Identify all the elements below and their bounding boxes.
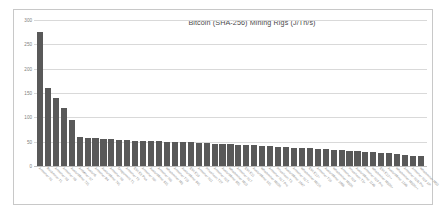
bar [370, 152, 376, 166]
x-axis-label-slot: Whatsminer M30S++ [394, 167, 400, 205]
x-axis-label-slot: Antminer S15 [212, 167, 218, 205]
x-axis-label-slot: AvalonMiner 921 [251, 167, 257, 205]
x-axis-label-slot: Antminer S3 [53, 167, 59, 205]
x-axis-label-slot: Innosilicon T3+ [346, 167, 352, 205]
bar [156, 141, 162, 166]
x-axis-label-slot: Whatsminer M21S [299, 167, 305, 205]
bar [172, 142, 178, 166]
y-axis-tick-label: 0 [29, 164, 32, 169]
bar [346, 151, 352, 166]
bar [196, 143, 202, 166]
x-axis-label-slot: Antminer S17+ [291, 167, 297, 205]
bar [53, 98, 59, 166]
x-axis-label-slot: Antminer T19 [315, 167, 321, 205]
x-axis-label-slot: Dragonmint T1 [116, 167, 122, 205]
y-axis-tick-label: 100 [24, 115, 32, 120]
bar [235, 145, 241, 166]
x-axis-label-slot: Avalon6 [85, 167, 91, 205]
x-axis-label-slot: AvalonMiner 851 [219, 167, 225, 205]
x-axis-tick-labels: Antminer S1Rockminer T1Antminer S3Antmin… [34, 167, 427, 205]
bar [410, 156, 416, 166]
x-axis-label-slot: Whatsminer M30S+ [370, 167, 376, 205]
y-axis-tick-label: 250 [24, 42, 32, 47]
bar [394, 154, 400, 166]
bar [116, 140, 122, 166]
bar [378, 153, 384, 166]
x-axis-label-slot: Ebit E12+ [307, 167, 313, 205]
y-axis-tick-label: 200 [24, 66, 32, 71]
x-axis-label-slot: Innosilicon T2T [204, 167, 210, 205]
bar [354, 151, 360, 166]
bar [132, 141, 138, 166]
bar [323, 149, 329, 166]
bar [259, 146, 265, 166]
chart-container: Bitcoin (SHA-256) Mining Rigs (J/Th/s) 3… [13, 9, 433, 205]
x-axis-label-slot: Antminer S9j [156, 167, 162, 205]
x-axis-label-slot: Whatsminer M10 [227, 167, 233, 205]
bar [227, 144, 233, 166]
x-axis-label-slot: Whatsminer M3 [164, 167, 170, 205]
x-axis-label-slot: AvalonMiner 1047 [283, 167, 289, 205]
bar [315, 149, 321, 166]
bar [140, 141, 146, 166]
bar [108, 139, 114, 166]
x-axis-label-slot: AvalonMiner 1066 [323, 167, 329, 205]
bar [77, 137, 83, 166]
x-axis-label-slot: Antminer R4 [92, 167, 98, 205]
plot-area [34, 20, 427, 166]
x-axis-label-slot: Antminer S5 [61, 167, 67, 205]
x-axis-label-slot: AvalonMiner 841 [180, 167, 186, 205]
bar [148, 141, 154, 166]
bar [92, 138, 98, 166]
y-axis-tick-labels: 300250200150100500 [14, 20, 34, 166]
x-axis-label-slot: Antminer S1 [37, 167, 43, 205]
x-axis-label-slot: AvalonMiner 821 [148, 167, 154, 205]
y-axis-tick-label: 50 [27, 139, 32, 144]
bar [69, 120, 75, 166]
bar [307, 148, 313, 166]
bar [275, 147, 281, 166]
bar [124, 140, 130, 166]
bar [331, 150, 337, 166]
x-axis-label-slot: Whatsminer M30S [331, 167, 337, 205]
bar [299, 148, 305, 166]
bar [267, 146, 273, 166]
x-axis-label-slot: AntMiner S7 [77, 167, 83, 205]
x-axis-label-slot: Antminer T9 [124, 167, 130, 205]
x-axis-label-slot: AvalonMiner 1246 [386, 167, 392, 205]
bar [180, 142, 186, 166]
x-axis-label-slot: Antminer S19 [339, 167, 345, 205]
bar [85, 138, 91, 166]
x-axis-label-slot: Antminer S9 [108, 167, 114, 205]
x-axis-label-slot: AvalonMiner 721 [69, 167, 75, 205]
x-axis-label-slot: Antminer S11 [196, 167, 202, 205]
x-axis-label-slot: Ebit E9 Plus [132, 167, 138, 205]
y-axis-tick-label: 300 [24, 18, 32, 23]
x-axis-label-slot: Ebit E11 [243, 167, 249, 205]
bar-series [34, 20, 427, 166]
x-axis-label-slot: Antminer S17 [235, 167, 241, 205]
x-axis-label-slot: Ebit E10 [188, 167, 194, 205]
bar [243, 145, 249, 166]
x-axis-label-slot: Antminer S19j Pro [402, 167, 408, 205]
x-axis-label-slot: Antminer S9i [140, 167, 146, 205]
x-axis-label-slot: Antminer S17 Pro [267, 167, 273, 205]
x-axis-label-slot: Antminer S19 Pro [362, 167, 368, 205]
x-axis-label-slot: Antminer T15 [172, 167, 178, 205]
bar [45, 88, 51, 166]
bar [100, 139, 106, 166]
bar [283, 147, 289, 166]
bar [362, 152, 368, 166]
bar [164, 142, 170, 166]
x-axis-label-slot: Innosilicon T3 [275, 167, 281, 205]
bar [251, 145, 257, 166]
x-axis-label-slot: Whatsminer M50 [418, 167, 424, 205]
bar [37, 32, 43, 166]
x-axis-label-slot: AvalonMiner 741 [100, 167, 106, 205]
bar [212, 144, 218, 166]
bar [418, 156, 424, 166]
bar [61, 108, 67, 166]
bar [291, 148, 297, 166]
x-axis-label-slot: AvalonMiner 1146 [354, 167, 360, 205]
x-axis-label-slot: Rockminer T1 [45, 167, 51, 205]
